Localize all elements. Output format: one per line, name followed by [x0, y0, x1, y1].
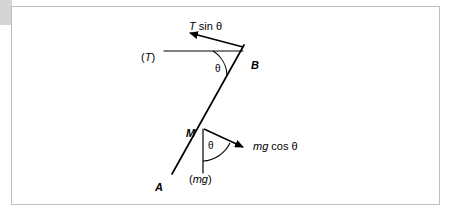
figure-canvas: A B M T sin θ mg cos θ (T) (mg) θ θ [0, 0, 453, 213]
vector-label-t-sin-theta: T sin θ [189, 21, 222, 32]
scalar-label-tension: (T) [141, 52, 155, 63]
force-diagram-svg [0, 0, 453, 213]
vector-label-t-rest: sin θ [196, 20, 222, 32]
scalar-label-weight-symbol: mg [193, 173, 208, 185]
vector-label-t-symbol: T [189, 20, 196, 32]
string-line-ab [172, 45, 244, 174]
vector-t-sin-theta [190, 33, 243, 47]
point-label-a: A [155, 182, 163, 193]
angle-label-theta-at-m: θ [208, 141, 214, 151]
point-label-b: B [251, 60, 259, 71]
angle-label-theta-at-b: θ [215, 64, 221, 74]
vector-label-mg-rest: cos θ [268, 140, 297, 152]
scalar-label-tension-symbol: T [145, 51, 152, 63]
point-label-m: M [186, 128, 195, 139]
vector-label-mg-symbol: mg [253, 140, 268, 152]
scalar-label-weight: (mg) [189, 174, 212, 185]
vector-label-mg-cos-theta: mg cos θ [253, 141, 298, 152]
